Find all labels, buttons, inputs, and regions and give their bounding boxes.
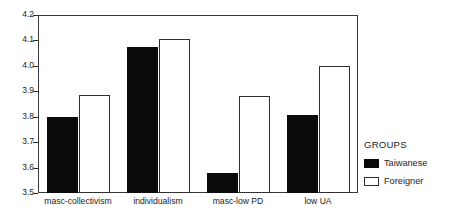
legend-entries: TaiwaneseForeigner bbox=[364, 156, 453, 189]
bar-taiwanese bbox=[287, 115, 318, 193]
bar-taiwanese bbox=[127, 47, 158, 193]
legend-entry: Taiwanese bbox=[364, 156, 453, 171]
legend-entry: Foreigner bbox=[364, 174, 453, 189]
y-axis-tick-labels: 4.24.14.03.93.83.73.63.5 bbox=[10, 0, 34, 216]
bars-layer bbox=[38, 15, 358, 193]
y-axis-tick-label: 3.7 bbox=[12, 137, 34, 146]
legend-label: Taiwanese bbox=[384, 158, 427, 169]
legend-swatch-foreigner bbox=[364, 177, 379, 186]
legend-label: Foreigner bbox=[384, 176, 423, 187]
bar-chart: 4.24.14.03.93.83.73.63.5 masc-collectivi… bbox=[0, 0, 453, 216]
y-axis-tick-label: 3.8 bbox=[12, 112, 34, 121]
x-axis-category-labels: masc-collectivismindividualismmasc-low P… bbox=[38, 196, 358, 212]
bar-foreigner bbox=[239, 96, 270, 193]
bar-foreigner bbox=[79, 95, 110, 193]
y-axis-tick-label: 4.0 bbox=[12, 61, 34, 70]
y-axis-tick-label: 3.6 bbox=[12, 163, 34, 172]
y-axis-tick-label: 4.2 bbox=[12, 10, 34, 19]
legend: GROUPS TaiwaneseForeigner bbox=[364, 139, 453, 192]
x-axis-category-label: low UA bbox=[258, 196, 378, 207]
bar-taiwanese bbox=[207, 173, 238, 193]
legend-swatch-taiwanese bbox=[364, 159, 379, 168]
y-axis-tick-mark bbox=[33, 193, 38, 194]
bar-foreigner bbox=[319, 66, 350, 193]
bar-taiwanese bbox=[47, 117, 78, 193]
y-axis-tick-label: 3.9 bbox=[12, 86, 34, 95]
bar-foreigner bbox=[159, 39, 190, 193]
legend-title: GROUPS bbox=[364, 139, 453, 151]
y-axis-tick-label: 4.1 bbox=[12, 35, 34, 44]
